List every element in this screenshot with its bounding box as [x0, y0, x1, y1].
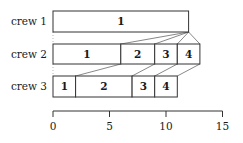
crew-label: crew 3: [11, 80, 47, 92]
connector-line: [132, 64, 155, 76]
crew-label: crew 1: [11, 15, 47, 27]
connector-line: [121, 32, 189, 44]
task-label: 3: [162, 48, 169, 60]
time-axis: 051015: [50, 111, 230, 132]
task-label: 2: [134, 48, 141, 60]
tick-label: 10: [159, 120, 172, 132]
task-label: 4: [185, 48, 192, 60]
crew-label: crew 2: [11, 48, 47, 60]
crew-rows: crew 11crew 21234crew 31234: [11, 11, 200, 97]
connector-line: [155, 64, 178, 76]
tick-label: 5: [106, 120, 113, 132]
task-label: 3: [140, 80, 147, 92]
tick-label: 15: [216, 120, 229, 132]
connector-line: [177, 64, 200, 76]
task-label: 1: [61, 80, 68, 92]
task-label: 1: [117, 15, 124, 27]
connector-line: [155, 32, 189, 44]
pipeline-diagram: crew 11crew 21234crew 31234 051015: [0, 0, 243, 143]
connector-line: [76, 64, 121, 76]
crew-row-2: crew 21234: [11, 44, 200, 64]
task-label: 1: [83, 48, 90, 60]
task-label: 4: [162, 80, 169, 92]
connector-line: [189, 32, 200, 44]
task-label: 2: [100, 80, 107, 92]
crew-row-1: crew 11: [11, 11, 189, 32]
tick-label: 0: [50, 120, 57, 132]
crew-row-3: crew 31234: [11, 76, 177, 97]
